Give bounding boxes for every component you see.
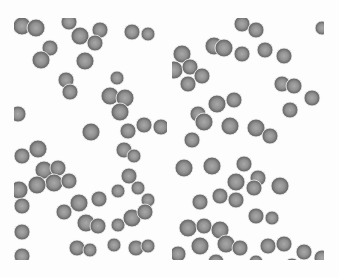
left-cells	[14, 18, 167, 260]
red-blood-cell	[76, 52, 94, 70]
right-cells	[172, 18, 324, 260]
red-blood-cell	[282, 102, 298, 118]
red-blood-cell	[172, 246, 186, 260]
red-blood-cell	[14, 248, 30, 260]
red-blood-cell	[276, 48, 292, 64]
red-blood-cell	[180, 76, 196, 92]
red-blood-cell	[286, 78, 302, 94]
red-blood-cell	[62, 84, 78, 100]
red-blood-cell	[69, 240, 85, 256]
red-blood-cell	[208, 254, 224, 260]
red-blood-cell	[284, 258, 300, 260]
red-blood-cell	[304, 90, 320, 106]
red-blood-cell	[234, 18, 250, 32]
red-blood-cell	[246, 180, 262, 196]
red-blood-cell	[296, 244, 312, 260]
red-blood-cell	[212, 188, 228, 204]
red-blood-cell	[91, 191, 107, 207]
red-blood-cell	[141, 239, 155, 253]
red-blood-cell	[14, 148, 30, 164]
red-blood-cell	[196, 218, 212, 234]
red-blood-cell	[29, 140, 47, 158]
red-blood-cell	[208, 95, 226, 113]
red-blood-cell	[32, 51, 50, 69]
red-blood-cell	[228, 192, 244, 208]
red-blood-cell	[127, 149, 141, 163]
red-blood-cell	[153, 119, 167, 135]
red-blood-cell	[14, 181, 28, 199]
red-blood-cell	[194, 68, 210, 84]
red-blood-cell	[249, 255, 263, 260]
red-blood-cell	[315, 21, 324, 35]
red-blood-cell	[184, 132, 200, 148]
red-blood-cell	[141, 27, 155, 41]
red-blood-cell	[45, 174, 63, 192]
red-blood-cell	[110, 71, 124, 85]
red-blood-cell	[82, 123, 100, 141]
red-blood-cell	[50, 160, 66, 176]
red-blood-cell	[111, 103, 129, 121]
red-blood-cell	[87, 35, 103, 51]
red-blood-cell	[61, 173, 77, 189]
red-blood-cell	[179, 219, 197, 237]
blood-smear-image	[0, 0, 339, 277]
red-blood-cell	[137, 204, 153, 220]
red-blood-cell	[111, 184, 125, 198]
right-panel	[172, 18, 324, 260]
red-blood-cell	[172, 61, 183, 79]
red-blood-cell	[221, 117, 239, 135]
red-blood-cell	[83, 243, 97, 257]
red-blood-cell	[257, 42, 273, 58]
red-blood-cell	[271, 177, 289, 195]
red-blood-cell	[27, 19, 45, 37]
red-blood-cell	[107, 238, 121, 252]
red-blood-cell	[195, 113, 213, 131]
red-blood-cell	[28, 176, 46, 194]
red-blood-cell	[175, 159, 193, 177]
red-blood-cell	[71, 27, 89, 45]
red-blood-cell	[120, 123, 136, 139]
red-blood-cell	[226, 92, 242, 108]
red-blood-cell	[234, 46, 250, 62]
red-blood-cell	[124, 24, 140, 40]
red-blood-cell	[70, 194, 88, 212]
red-blood-cell	[90, 218, 106, 234]
red-blood-cell	[203, 157, 221, 175]
red-blood-cell	[61, 18, 77, 30]
red-blood-cell	[191, 237, 209, 255]
red-blood-cell	[314, 250, 324, 260]
left-panel	[14, 18, 167, 260]
red-blood-cell	[131, 181, 145, 195]
red-blood-cell	[14, 198, 30, 214]
red-blood-cell	[232, 240, 248, 256]
red-blood-cell	[265, 211, 279, 225]
red-blood-cell	[56, 204, 72, 220]
red-blood-cell	[236, 156, 252, 172]
red-blood-cell	[248, 208, 264, 224]
red-blood-cell	[136, 117, 152, 133]
red-blood-cell	[276, 236, 292, 252]
red-blood-cell	[260, 238, 276, 254]
red-blood-cell	[215, 39, 233, 57]
red-blood-cell	[227, 173, 245, 191]
red-blood-cell	[262, 128, 278, 144]
red-blood-cell	[14, 106, 26, 122]
red-blood-cell	[248, 22, 264, 38]
red-blood-cell	[14, 224, 30, 240]
red-blood-cell	[192, 194, 208, 210]
